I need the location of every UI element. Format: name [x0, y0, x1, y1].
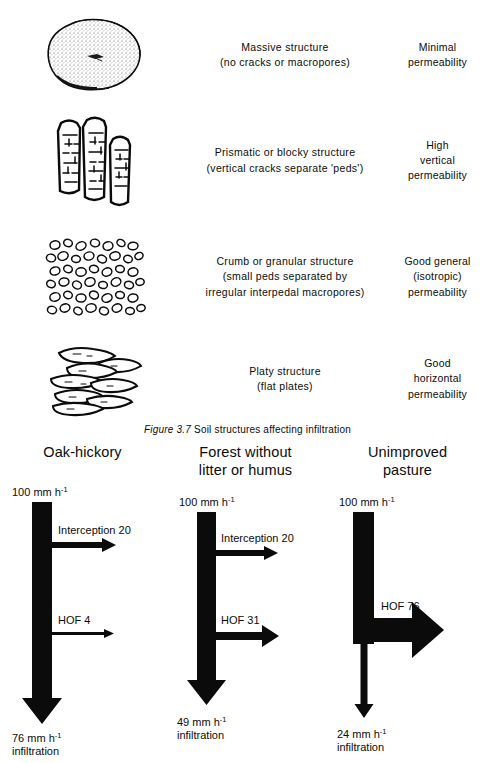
- description-line: irregular interpedal macropores): [190, 285, 380, 300]
- figure-caption: Figure 3.7 Soil structures affecting inf…: [0, 424, 495, 435]
- description-line: Platy structure: [190, 364, 380, 379]
- permeability-line: High: [380, 138, 495, 153]
- permeability-line: vertical: [380, 153, 495, 168]
- input-rainfall-label: 100 mm h-1: [12, 485, 68, 498]
- hof-branch-label: HOF 4: [58, 614, 90, 626]
- description-line: Massive structure: [190, 40, 380, 55]
- crumb-granular-peds-illustration: [0, 235, 190, 320]
- flow-column-forest-without-litter: Forest without litter or humus 100 mm h-…: [163, 444, 328, 763]
- soil-structure-row: Prismatic or blocky structure (vertical …: [0, 113, 495, 208]
- description-line: (vertical cracks separate 'peds'): [190, 161, 380, 176]
- soil-structure-description: Prismatic or blocky structure (vertical …: [190, 145, 380, 175]
- soil-structure-description: Crumb or granular structure (small peds …: [190, 254, 380, 300]
- soil-permeability-note: Good horizontal permeability: [380, 356, 495, 402]
- soil-permeability-note: Good general (isotropic) permeability: [380, 254, 495, 300]
- hof-branch-arrow: [52, 629, 114, 638]
- interception-branch-label: Interception 20: [221, 532, 294, 544]
- soil-structure-table: Massive structure (no cracks or macropor…: [0, 0, 495, 420]
- flow-column-title: Oak-hickory: [0, 444, 165, 462]
- figure-caption-text: Soil structures affecting infiltration: [194, 424, 351, 435]
- permeability-line: permeability: [380, 387, 495, 402]
- title-line: Oak-hickory: [0, 444, 165, 462]
- description-line: Crumb or granular structure: [190, 254, 380, 269]
- output-infiltration-label: 76 mm h-1: [12, 731, 61, 744]
- flow-column-title: Unimproved pasture: [325, 444, 490, 479]
- hof-branch-arrow: [216, 625, 279, 647]
- output-infiltration-label: 49 mm h-1: [177, 715, 226, 728]
- interception-branch-arrow: [216, 546, 278, 560]
- hof-branch-label: HOF 31: [221, 614, 260, 626]
- flow-column-unimproved-pasture: Unimproved pasture 100 mm h-1 HOF 76 24 …: [325, 444, 490, 763]
- infiltration-flow-diagrams: Oak-hickory 100 mm h-1 Interception 20 H…: [0, 444, 495, 763]
- soil-structure-row: Platy structure (flat plates) Good horiz…: [0, 338, 495, 420]
- permeability-line: horizontal: [380, 371, 495, 386]
- description-line: (no cracks or macropores): [190, 55, 380, 70]
- soil-permeability-note: Minimal permeability: [380, 40, 495, 70]
- permeability-line: permeability: [380, 55, 495, 70]
- main-infiltration-arrow-upper: [353, 512, 374, 644]
- title-line: litter or humus: [163, 462, 328, 480]
- flow-column-title: Forest without litter or humus: [163, 444, 328, 479]
- title-line: Forest without: [163, 444, 328, 462]
- platy-plates-illustration: [0, 341, 190, 417]
- interception-branch-arrow: [52, 538, 116, 552]
- permeability-line: permeability: [380, 285, 495, 300]
- main-infiltration-arrow: [22, 502, 62, 724]
- output-infiltration-caption: infiltration: [177, 729, 224, 741]
- prismatic-blocky-peds-illustration: [0, 113, 190, 208]
- permeability-line: Minimal: [380, 40, 495, 55]
- oak-hickory-flow-svg: 100 mm h-1 Interception 20 HOF 4 76 mm h…: [0, 474, 165, 759]
- main-infiltration-arrow-lower: [355, 644, 374, 718]
- permeability-line: permeability: [380, 168, 495, 183]
- permeability-line: Good: [380, 356, 495, 371]
- soil-structure-description: Massive structure (no cracks or macropor…: [190, 40, 380, 70]
- title-line: Unimproved: [325, 444, 490, 462]
- interception-branch-label: Interception 20: [58, 524, 131, 536]
- soil-structure-description: Platy structure (flat plates): [190, 364, 380, 394]
- permeability-line: Good general: [380, 254, 495, 269]
- title-line: pasture: [325, 462, 490, 480]
- output-infiltration-caption: infiltration: [337, 741, 384, 753]
- soil-structure-row: Massive structure (no cracks or macropor…: [0, 10, 495, 100]
- forest-without-litter-flow-svg: 100 mm h-1 Interception 20 HOF 31 49 mm …: [163, 492, 328, 763]
- description-line: (small peds separated by: [190, 269, 380, 284]
- input-rainfall-label: 100 mm h-1: [179, 495, 235, 508]
- description-line: Prismatic or blocky structure: [190, 145, 380, 160]
- input-rainfall-label: 100 mm h-1: [339, 495, 395, 508]
- unimproved-pasture-flow-svg: 100 mm h-1 HOF 76 24 mm h-1 infiltration: [325, 492, 490, 763]
- output-infiltration-caption: infiltration: [12, 745, 59, 757]
- figure-caption-label: Figure 3.7: [144, 424, 191, 435]
- massive-soil-ped-illustration: [0, 16, 190, 94]
- soil-structure-row: Crumb or granular structure (small peds …: [0, 232, 495, 322]
- permeability-line: (isotropic): [380, 269, 495, 284]
- flow-column-oak-hickory: Oak-hickory 100 mm h-1 Interception 20 H…: [0, 444, 165, 763]
- soil-permeability-note: High vertical permeability: [380, 138, 495, 184]
- output-infiltration-label: 24 mm h-1: [337, 727, 386, 740]
- description-line: (flat plates): [190, 379, 380, 394]
